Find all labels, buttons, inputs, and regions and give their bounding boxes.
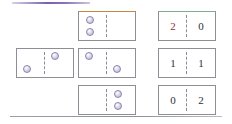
domino-half-right: [107, 49, 135, 77]
domino-half-right: [45, 49, 73, 77]
pip-dot: [51, 52, 59, 60]
domino-tile-pips[interactable]: [16, 48, 74, 78]
pip-dot: [114, 90, 122, 98]
domino-number-right: 1: [187, 49, 215, 77]
pip-dot: [85, 52, 93, 60]
domino-number-right: 2: [187, 86, 215, 114]
pip-dot: [113, 65, 121, 73]
tile-row: 0 2: [0, 85, 232, 115]
pip-dot: [86, 28, 94, 36]
tile-row: 1 1: [0, 48, 232, 78]
domino-tile-numbers[interactable]: 0 2: [158, 85, 216, 115]
domino-tile-numbers[interactable]: 1 1: [158, 48, 216, 78]
domino-number-left: 2: [159, 12, 187, 40]
domino-half-left: [79, 49, 107, 77]
bottom-decorative-rule: [10, 116, 222, 117]
domino-number-right: 0: [187, 12, 215, 40]
domino-tile-pips[interactable]: [78, 48, 136, 78]
domino-half-left: [79, 86, 107, 114]
domino-number-left: 1: [159, 49, 187, 77]
domino-tile-grid: 2 0 1 1: [0, 0, 232, 124]
domino-tile-pips[interactable]: [78, 11, 136, 41]
domino-half-left: [17, 49, 45, 77]
domino-tile-pips[interactable]: [78, 85, 136, 115]
domino-tile-numbers[interactable]: 2 0: [158, 11, 216, 41]
domino-half-right: [107, 12, 135, 40]
domino-half-left: [79, 12, 107, 40]
pip-dot: [114, 102, 122, 110]
domino-half-right: [107, 86, 135, 114]
pip-dot: [23, 65, 31, 73]
tile-row: 2 0: [0, 11, 232, 41]
domino-number-left: 0: [159, 86, 187, 114]
pip-dot: [86, 16, 94, 24]
